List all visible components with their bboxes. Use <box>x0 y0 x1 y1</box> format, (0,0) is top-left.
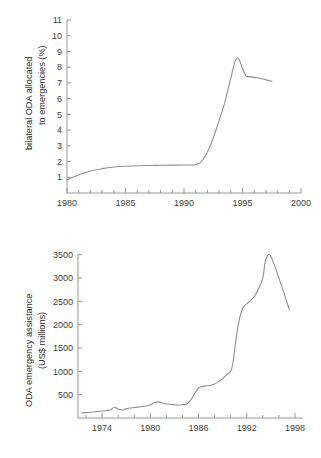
bottom-data-line <box>82 254 289 413</box>
x-tick-label: 1986 <box>189 423 209 433</box>
x-tick-label: 1980 <box>57 198 77 208</box>
top-data-line <box>67 58 272 180</box>
y-tick-label: 1 <box>57 172 62 182</box>
y-tick-label: 3000 <box>53 273 73 283</box>
bottom-y-axis-title-line2: (US$ millions) <box>37 312 47 369</box>
y-tick-label: 2 <box>57 157 62 167</box>
x-tick-label: 1992 <box>237 423 257 433</box>
y-tick-label: 2500 <box>53 297 73 307</box>
y-tick-label: 2000 <box>53 320 73 330</box>
bottom-chart-svg: ODA emergency assistance (US$ millions) … <box>0 229 321 458</box>
chart-oda-emergency-assistance: ODA emergency assistance (US$ millions) … <box>0 229 321 458</box>
x-tick-label: 1985 <box>115 198 135 208</box>
y-tick-label: 10 <box>52 31 62 41</box>
top-chart-svg: bilateral ODA allocated to emergencies (… <box>0 0 321 229</box>
y-tick-label: 1000 <box>53 367 73 377</box>
x-tick-label: 1990 <box>174 198 194 208</box>
y-tick-label: 8 <box>57 62 62 72</box>
y-tick-label: 11 <box>53 15 62 25</box>
y-tick-label: 4 <box>57 125 62 135</box>
x-tick-label: 2000 <box>291 198 311 208</box>
top-tick-labels: 123456789101119801985199019952000 <box>52 15 311 208</box>
bottom-tick-labels: 5001000150020002500300035001974198019861… <box>53 250 305 433</box>
y-tick-label: 3 <box>57 141 62 151</box>
bottom-axes <box>78 255 303 418</box>
top-axes <box>67 20 301 193</box>
y-tick-label: 7 <box>57 78 62 88</box>
x-tick-label: 1998 <box>285 423 305 433</box>
top-y-axis-title: bilateral ODA allocated to emergencies (… <box>24 45 47 150</box>
y-tick-label: 5 <box>57 110 62 120</box>
chart-bilateral-oda-percent: bilateral ODA allocated to emergencies (… <box>0 0 321 229</box>
top-y-axis-title-line1: bilateral ODA allocated <box>24 57 34 150</box>
x-tick-label: 1974 <box>92 423 112 433</box>
x-tick-label: 1995 <box>232 198 252 208</box>
y-tick-label: 500 <box>58 390 73 400</box>
x-tick-label: 1980 <box>140 423 160 433</box>
bottom-y-axis-title-line1: ODA emergency assistance <box>24 294 34 407</box>
y-tick-label: 6 <box>57 94 62 104</box>
bottom-y-axis-title: ODA emergency assistance (US$ millions) <box>24 294 47 407</box>
y-tick-label: 9 <box>57 47 62 57</box>
top-y-axis-title-line2: to emergencies (%) <box>37 45 47 125</box>
y-tick-label: 3500 <box>53 250 73 260</box>
y-tick-label: 1500 <box>53 343 73 353</box>
